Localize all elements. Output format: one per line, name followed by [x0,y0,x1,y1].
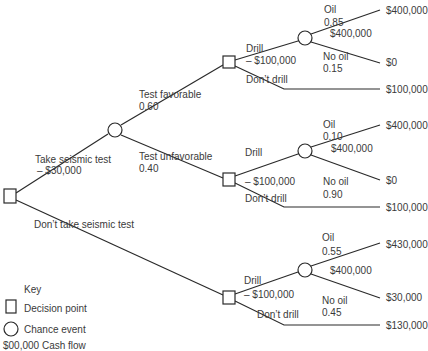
drill-label: Drill [245,147,262,158]
no-oil-prob: 0.90 [323,189,342,200]
no-oil-label: No oil [323,51,349,62]
key-chance-icon [4,322,18,336]
unfavorable-decision-node [223,173,235,186]
oil-value: $400,000 [331,143,373,154]
no-oil-payoff: $30,000 [386,292,422,303]
test-chance-node [108,123,122,137]
drill-cost: – $100,000 [244,289,294,300]
oil-label: Oil [324,4,336,15]
oil-value: $400,000 [330,28,372,39]
dont-drill-payoff: $130,000 [386,320,428,331]
oil-prob: 0.85 [324,17,343,28]
no-test-chance-node [298,263,312,277]
key-chance-label: Chance event [24,324,86,335]
oil-payoff: $400,000 [386,120,428,131]
oil-value: $400,000 [330,265,372,276]
test-favorable-label: Test favorable [139,89,201,100]
drill-cost: – $100,000 [245,176,295,187]
dont-drill-label: Don’t drill [246,74,288,85]
test-unfavorable-prob: 0.40 [139,163,158,174]
drill-cost: – $100,000 [246,55,296,66]
drill-label: Drill [246,43,263,54]
take-test-cost: – $30,000 [37,165,82,176]
oil-label: Oil [322,232,334,243]
no-oil-payoff: $0 [386,175,397,186]
dont-drill-label: Don’t drill [245,193,287,204]
take-test-label: Take seismic test [35,154,111,165]
no-test-decision-node [223,291,235,304]
key-decision-icon [6,300,16,313]
dont-drill-label: Don’t drill [257,309,299,320]
oil-prob: 0.55 [322,246,341,257]
dont-drill-payoff: $100,000 [386,84,428,95]
key-cash-flow-label: $00,000 Cash flow [3,340,86,351]
no-oil-label: No oil [322,295,348,306]
oil-label: Oil [323,119,335,130]
test-unfavorable-label: Test unfavorable [139,151,212,162]
oil-payoff: $400,000 [386,5,428,16]
key-decision-label: Decision point [24,303,87,314]
dont-take-test-label: Don’t take seismic test [34,219,134,230]
test-favorable-prob: 0.60 [139,101,158,112]
unfavorable-chance-node [298,144,312,158]
key-title: Key [24,284,41,295]
drill-label: Drill [244,275,261,286]
no-oil-label: No oil [323,176,349,187]
oil-prob: 0.10 [323,131,342,142]
root-decision-node [4,189,16,203]
favorable-decision-node [223,56,235,68]
no-oil-prob: 0.15 [323,63,342,74]
dont-drill-payoff: $100,000 [386,202,428,213]
no-oil-payoff: $0 [386,57,397,68]
favorable-chance-node [298,31,312,45]
no-oil-prob: 0.45 [322,307,341,318]
oil-payoff: $430,000 [386,239,428,250]
